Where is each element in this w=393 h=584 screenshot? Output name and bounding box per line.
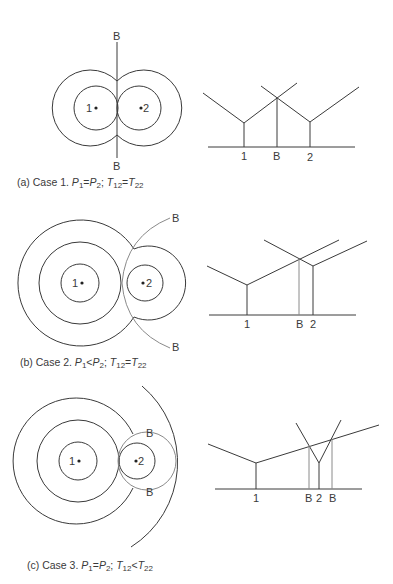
station2-dot: [141, 281, 144, 284]
boundary-circle: [118, 432, 176, 490]
panel-c-profile: 1 B 2 B: [208, 420, 379, 504]
station2-inner-circle: [127, 265, 163, 301]
profile-boundary-right-label: B: [329, 492, 336, 504]
profile-boundary-label: B: [296, 318, 303, 330]
station2-label: 2: [143, 102, 149, 114]
station1-outer-circle: [52, 70, 117, 146]
profile-boundary-label: B: [273, 150, 280, 162]
panel-b: 1 2 B B 1 B 2 (b) Case 2. P1<P2; T12=T22: [18, 212, 367, 370]
panel-b-caption: (b) Case 2. P1<P2; T12=T22: [20, 356, 147, 370]
profile-station2-label: 2: [310, 318, 316, 330]
profile-station1-label: 1: [241, 150, 247, 162]
station2-cost-curve: [261, 86, 359, 122]
station1-cost-curve: [203, 83, 297, 123]
station1-dot: [80, 281, 83, 284]
station1-label: 1: [69, 455, 75, 467]
station2-label: 2: [138, 455, 144, 467]
profile-station2-label: 2: [307, 151, 313, 163]
station1-cost-curve: [207, 240, 339, 285]
station1-dot: [94, 106, 97, 109]
boundary-label-bottom: B: [113, 160, 120, 172]
figure-canvas: 1 2 B B 1 B 2 (a) Case 1. P1=P2; T12=T22: [0, 0, 393, 584]
panel-b-circle-map: 1 2 B B: [18, 212, 186, 353]
panel-a-profile: 1 B 2: [203, 83, 359, 163]
boundary-label-top: B: [172, 212, 179, 224]
profile-boundary-left-label: B: [305, 492, 312, 504]
boundary-label-top: B: [113, 30, 120, 42]
panel-c: 1 2 B B 1 B 2 B (c) Case 3. P1=P2; T12<T…: [13, 386, 379, 573]
station2-cost-curve: [264, 240, 367, 266]
profile-station2-label: 2: [316, 492, 322, 504]
boundary-label-bottom: B: [172, 341, 179, 353]
panel-a-caption: (a) Case 1. P1=P2; T12=T22: [17, 176, 144, 190]
station1-dot: [77, 459, 80, 462]
station2-cost-curve: [296, 420, 341, 463]
station1-inner-circle: [61, 264, 99, 302]
station2-label: 2: [146, 277, 152, 289]
station1-label: 1: [86, 102, 92, 114]
boundary-label-top: B: [146, 427, 153, 439]
boundary-label-bottom: B: [146, 486, 153, 498]
station1-label: 1: [72, 277, 78, 289]
profile-station1-label: 1: [244, 318, 250, 330]
panel-a-circle-map: 1 2 B B: [52, 30, 181, 172]
panel-b-profile: 1 B 2: [207, 240, 367, 330]
station1-middle-circle: [39, 242, 121, 324]
panel-c-caption: (c) Case 3. P1=P2; T12<T22: [27, 559, 154, 573]
station2-inner-circle: [117, 86, 161, 130]
panel-c-circle-map: 1 2 B B: [13, 386, 177, 547]
profile-station1-label: 1: [253, 492, 259, 504]
station2-outer-circle: [117, 70, 182, 146]
panel-a: 1 2 B B 1 B 2 (a) Case 1. P1=P2; T12=T22: [17, 30, 359, 190]
station1-cost-curve: [208, 425, 379, 463]
